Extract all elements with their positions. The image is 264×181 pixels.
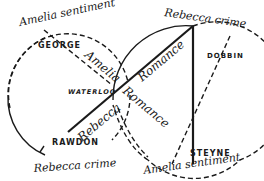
left-circle-crime-arc bbox=[8, 95, 45, 155]
node-dobbin: DOBBIN bbox=[207, 52, 244, 60]
romance-dashed-lower bbox=[118, 108, 148, 157]
node-george: GEORGE bbox=[38, 41, 81, 50]
label-rebecca-crime-bottom: Rebecca crime bbox=[32, 156, 117, 175]
node-steyne: STEYNE bbox=[190, 149, 231, 158]
plot-diagram: Amelia sentiment Rebecca crime Rebecca c… bbox=[0, 0, 264, 181]
label-amelia-sentiment-top: Amelia sentiment bbox=[17, 0, 117, 29]
label-romance-lower: Romance bbox=[119, 83, 172, 131]
node-waterloo: WATERLOO bbox=[68, 88, 116, 96]
label-romance-upper: Romance bbox=[134, 37, 187, 85]
rawdon-tick bbox=[40, 146, 44, 152]
node-rawdon: RAWDON bbox=[52, 138, 99, 147]
